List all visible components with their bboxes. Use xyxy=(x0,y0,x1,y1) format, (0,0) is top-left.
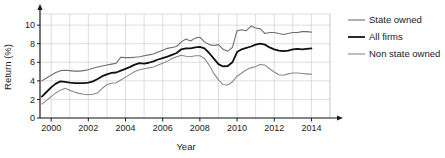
x-axis-tick-label: 2014 xyxy=(301,123,321,133)
x-axis-tick-label: 2000 xyxy=(41,123,61,133)
y-axis-tick-label: 0 xyxy=(30,113,35,123)
y-axis-tick-label: 6 xyxy=(30,57,35,67)
chart-figure: 024681020002002200420062008201020122014 … xyxy=(0,0,445,158)
x-axis-tick-label: 2002 xyxy=(78,123,98,133)
legend-label: All firms xyxy=(369,31,403,42)
legend-label: Non state owned xyxy=(369,48,440,59)
line-chart: 024681020002002200420062008201020122014 … xyxy=(0,0,445,158)
y-axis-title: Return (%) xyxy=(2,44,13,90)
y-axis-tick-label: 2 xyxy=(30,95,35,105)
x-axis-tick-label: 2008 xyxy=(190,123,210,133)
y-axis-tick-label: 8 xyxy=(30,39,35,49)
x-axis-tick-label: 2012 xyxy=(264,123,284,133)
y-axis-tick-label: 4 xyxy=(30,76,35,86)
x-axis-tick-label: 2006 xyxy=(153,123,173,133)
x-axis-tick-label: 2004 xyxy=(115,123,135,133)
x-axis-title: Year xyxy=(176,141,195,152)
legend-label: State owned xyxy=(369,14,422,25)
y-axis-tick-label: 10 xyxy=(25,20,35,30)
x-axis-tick-label: 2010 xyxy=(227,123,247,133)
